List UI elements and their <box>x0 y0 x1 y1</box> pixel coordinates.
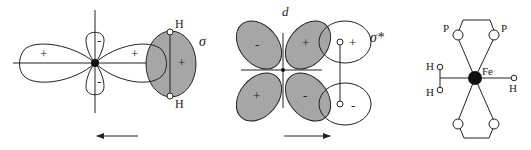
panel-fe-complex: Fe P P H H H <box>426 20 517 138</box>
label-fe: Fe <box>482 65 493 77</box>
metal-center <box>91 59 99 67</box>
label-h-top: H <box>175 17 184 31</box>
sign-bottom-lobe: - <box>97 74 101 89</box>
d-lobe-bottom-right <box>276 64 340 130</box>
metal-center-d <box>281 68 285 72</box>
label-h-bottom: H <box>175 97 184 111</box>
label-p-left: P <box>443 22 449 34</box>
p-atom-top-left <box>453 30 463 40</box>
h-atom-h2-bottom <box>437 87 443 93</box>
label-sigma: σ <box>199 34 207 49</box>
sign-d-bottom-right: - <box>303 88 307 103</box>
sign-sigma: + <box>178 55 185 70</box>
sign-sigma-star-top: + <box>349 35 356 50</box>
p-atom-bottom-left <box>453 119 463 129</box>
label-d: d <box>282 4 289 19</box>
h-atom-top-d <box>337 39 343 45</box>
orbital-diagram: + + - - + H H σ d - + + - + <box>0 0 531 150</box>
sign-d-top-right: + <box>302 35 309 50</box>
label-h-hydride: H <box>509 82 517 94</box>
diphosphine-top-backbone <box>458 20 495 33</box>
h-atom-bottom <box>167 93 173 99</box>
diagram-canvas: + + - - + H H σ d - + + - + <box>0 0 531 150</box>
diphosphine-bottom-backbone <box>459 126 494 138</box>
panel-sigma-donation: + + - - + H H σ <box>13 10 207 136</box>
sign-d-top-left: - <box>255 37 259 52</box>
label-h-h2-top: H <box>426 60 434 72</box>
h-atom-bottom-d <box>337 101 343 107</box>
sign-sigma-star-bottom: - <box>351 98 355 113</box>
fe-atom <box>468 71 482 85</box>
sign-top-lobe: - <box>97 33 101 48</box>
sigma-orbital-lobe <box>146 31 196 97</box>
sign-d-bottom-left: + <box>253 88 260 103</box>
label-h-h2-bottom: H <box>426 86 434 98</box>
label-p-right: P <box>501 22 507 34</box>
bond-fe-p4 <box>475 78 494 121</box>
sign-right-lobe: + <box>131 46 138 61</box>
h-atom-h2-top <box>437 64 443 70</box>
p-atom-bottom-right <box>489 119 499 129</box>
h-atom-hydride <box>511 75 517 81</box>
label-sigma-star: σ* <box>370 30 384 45</box>
p-atom-top-right <box>489 30 499 40</box>
panel-d-backdonation: d - + + - + - σ* <box>227 4 384 136</box>
h-atom-top <box>167 29 173 35</box>
sign-left-lobe: + <box>40 46 47 61</box>
